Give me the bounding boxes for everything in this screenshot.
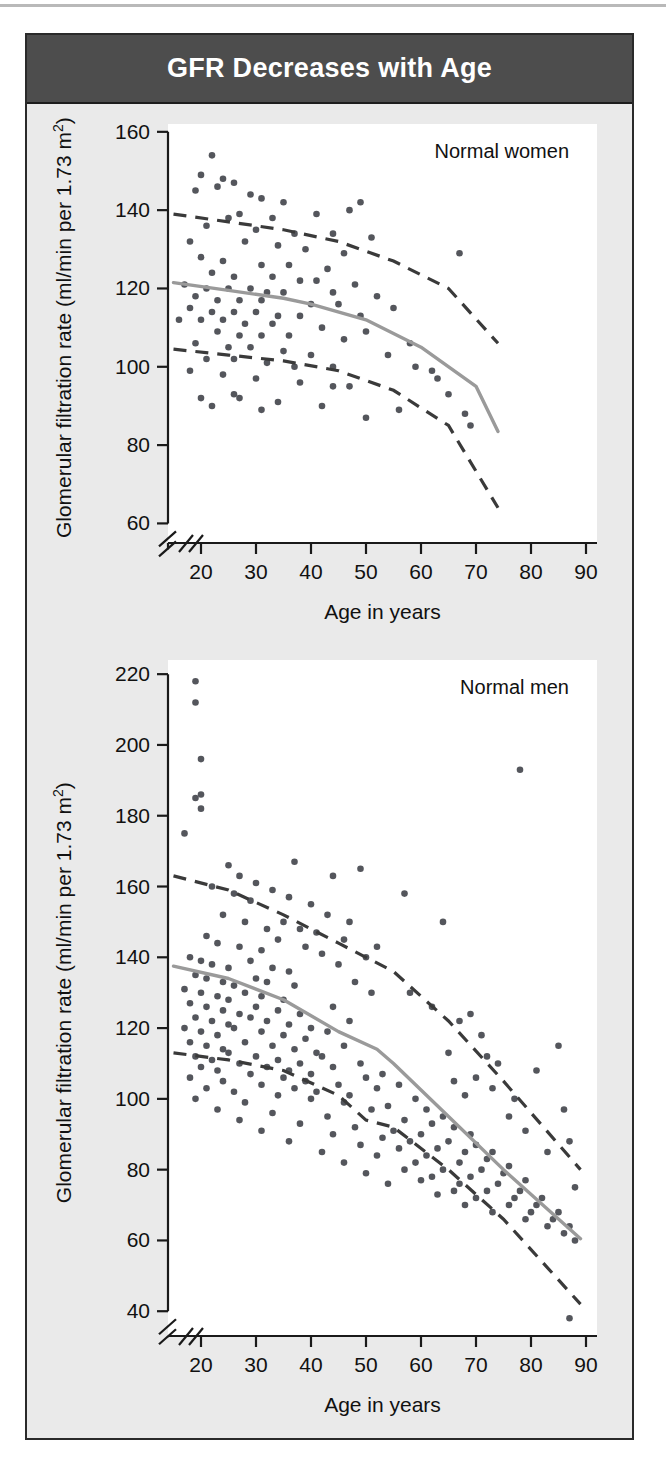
data-point <box>489 1149 496 1156</box>
data-point <box>341 1042 348 1049</box>
y-axis-tick-label: 200 <box>115 733 150 756</box>
data-point <box>236 1117 243 1124</box>
data-point <box>330 1004 337 1011</box>
data-point <box>187 238 194 245</box>
data-point <box>192 340 199 347</box>
data-point <box>297 277 304 284</box>
data-point <box>198 756 205 763</box>
data-point <box>225 1050 232 1057</box>
x-axis-tick-label: 30 <box>244 560 267 583</box>
data-point <box>236 395 243 402</box>
y-axis-tick-label: 140 <box>115 945 150 968</box>
data-point <box>335 961 342 968</box>
data-point <box>302 246 309 253</box>
data-point <box>269 215 276 222</box>
data-point <box>440 919 447 926</box>
data-point <box>220 371 227 378</box>
data-point <box>396 1145 403 1152</box>
data-point <box>566 1138 573 1145</box>
data-point <box>385 1181 392 1188</box>
data-point <box>220 912 227 919</box>
data-point <box>247 191 254 198</box>
data-point <box>297 1120 304 1127</box>
data-point <box>401 1117 408 1124</box>
data-point <box>275 242 282 249</box>
data-point <box>275 1057 282 1064</box>
data-point <box>231 309 238 316</box>
y-axis-title-superscript: 2 <box>50 124 66 132</box>
data-point <box>209 1057 216 1064</box>
x-axis-tick-label: 40 <box>299 560 322 583</box>
y-axis-tick-label: 60 <box>127 511 150 534</box>
y-axis-tick-label: 60 <box>127 1228 150 1251</box>
data-point <box>324 266 331 273</box>
data-point <box>396 407 403 414</box>
data-point <box>533 1067 540 1074</box>
y-axis-tick-label: 100 <box>115 355 150 378</box>
data-point <box>209 1018 216 1025</box>
data-point <box>352 281 359 288</box>
data-point <box>434 1191 441 1198</box>
data-point <box>308 352 315 359</box>
data-point <box>434 1145 441 1152</box>
data-point <box>253 375 260 382</box>
data-point <box>330 289 337 296</box>
y-axis-tick-label: 80 <box>127 433 150 456</box>
data-point <box>407 1138 414 1145</box>
data-point <box>341 1159 348 1166</box>
data-point <box>209 309 216 316</box>
data-point <box>352 1124 359 1131</box>
data-point <box>561 1230 568 1237</box>
data-point <box>231 890 238 897</box>
data-point <box>561 1106 568 1113</box>
data-point <box>203 356 210 363</box>
data-point <box>423 1106 430 1113</box>
data-point <box>385 352 392 359</box>
data-point <box>187 367 194 374</box>
y-axis-title-main: Glomerular filtration rate (ml/min per 1… <box>52 797 75 1203</box>
data-point <box>275 1007 282 1014</box>
data-point <box>324 1113 331 1120</box>
data-point <box>242 919 249 926</box>
data-point <box>242 320 249 327</box>
data-point <box>286 332 293 339</box>
data-point <box>335 1081 342 1088</box>
data-point <box>220 176 227 183</box>
data-point <box>231 273 238 280</box>
data-point <box>280 199 287 206</box>
data-point <box>473 1074 480 1081</box>
data-point <box>489 1085 496 1092</box>
data-point <box>363 328 370 335</box>
data-point <box>379 1071 386 1078</box>
data-point <box>225 996 232 1003</box>
data-point <box>456 1018 463 1025</box>
data-point <box>286 1138 293 1145</box>
data-point <box>242 1099 249 1106</box>
data-point <box>192 293 199 300</box>
data-point <box>280 289 287 296</box>
data-point <box>390 305 397 312</box>
data-point <box>225 344 232 351</box>
data-point <box>220 1007 227 1014</box>
data-point <box>203 1042 210 1049</box>
data-point <box>302 943 309 950</box>
data-point <box>324 912 331 919</box>
data-point <box>544 1223 551 1230</box>
data-point <box>379 1135 386 1142</box>
data-point <box>258 195 265 202</box>
data-point <box>396 1081 403 1088</box>
data-point <box>209 883 216 890</box>
data-point <box>253 1053 260 1060</box>
data-point <box>473 1195 480 1202</box>
data-point <box>291 1085 298 1092</box>
data-point <box>352 979 359 986</box>
data-point <box>555 1209 562 1216</box>
data-point <box>209 961 216 968</box>
data-point <box>231 179 238 186</box>
data-point <box>198 791 205 798</box>
data-point <box>445 1050 452 1057</box>
data-point <box>478 1032 485 1039</box>
data-point <box>319 950 326 957</box>
data-point <box>242 989 249 996</box>
data-point <box>258 1028 265 1035</box>
